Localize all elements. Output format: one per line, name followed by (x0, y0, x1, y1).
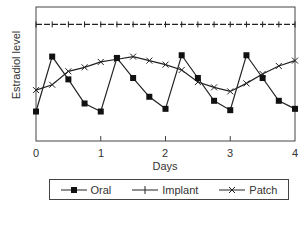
x-tick-label: 2 (155, 147, 175, 159)
series-oral (33, 52, 298, 114)
legend-item-patch: Patch (219, 184, 277, 196)
x-tick-label: 4 (285, 147, 305, 159)
line-square-marker-icon (61, 186, 87, 194)
legend-label: Patch (249, 184, 277, 196)
line-x-marker-icon (219, 186, 245, 194)
x-tick-label: 3 (220, 147, 240, 159)
legend: Oral Implant Patch (49, 179, 289, 200)
x-axis-ticks (101, 136, 231, 141)
legend-label: Oral (91, 184, 112, 196)
line-plus-marker-icon (132, 186, 158, 194)
series-patch (33, 54, 298, 95)
y-axis-label: Estradiol level (10, 20, 24, 110)
x-tick-label: 1 (91, 147, 111, 159)
x-tick-label: 0 (26, 147, 46, 159)
legend-item-oral: Oral (61, 184, 112, 196)
legend-item-implant: Implant (132, 184, 198, 196)
series-implant (36, 21, 295, 27)
x-axis-label: Days (145, 160, 185, 172)
legend-label: Implant (162, 184, 198, 196)
